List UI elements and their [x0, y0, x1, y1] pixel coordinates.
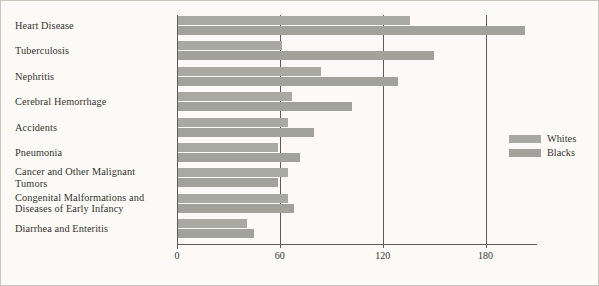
- tick-mark-120: [383, 244, 384, 248]
- legend-item-whites: Whites: [509, 133, 595, 144]
- bar-blacks-5: [178, 153, 300, 162]
- bar-whites-3: [178, 92, 292, 101]
- category-label-4: Accidents: [15, 122, 177, 134]
- bar-whites-4: [178, 118, 288, 127]
- bar-whites-8: [178, 219, 247, 228]
- chart-legend: WhitesBlacks: [509, 133, 595, 161]
- bar-blacks-3: [178, 102, 352, 111]
- bar-whites-5: [178, 143, 278, 152]
- tick-label-180: 180: [478, 250, 493, 261]
- bar-blacks-1: [178, 51, 434, 60]
- legend-label-whites: Whites: [547, 133, 576, 144]
- tick-label-120: 120: [375, 250, 390, 261]
- legend-swatch-blacks: [509, 149, 541, 157]
- category-label-1: Tuberculosis: [15, 45, 177, 57]
- bar-blacks-8: [178, 229, 254, 238]
- bar-blacks-0: [178, 26, 525, 35]
- legend-label-blacks: Blacks: [547, 147, 575, 158]
- category-label-7: Congenital Malformations and Diseases of…: [15, 192, 177, 215]
- bar-whites-7: [178, 194, 288, 203]
- category-label-8: Diarrhea and Enteritis: [15, 223, 177, 235]
- category-label-6: Cancer and Other Malignant Tumors: [15, 166, 177, 189]
- chart-figure: Heart DiseaseTuberculosisNephritisCerebr…: [0, 0, 599, 286]
- category-label-5: Pneumonia: [15, 147, 177, 159]
- bar-whites-2: [178, 67, 321, 76]
- category-label-column: Heart DiseaseTuberculosisNephritisCerebr…: [1, 1, 177, 286]
- gridline-180: [486, 15, 487, 244]
- bar-whites-0: [178, 16, 410, 25]
- tick-mark-0: [177, 244, 178, 248]
- category-label-3: Cerebral Hemorrhage: [15, 96, 177, 108]
- tick-label-0: 0: [175, 250, 180, 261]
- legend-swatch-whites: [509, 135, 541, 143]
- tick-label-60: 60: [275, 250, 285, 261]
- bar-blacks-7: [178, 204, 294, 213]
- bar-blacks-4: [178, 128, 314, 137]
- bar-blacks-2: [178, 77, 398, 86]
- legend-item-blacks: Blacks: [509, 147, 595, 158]
- bar-blacks-6: [178, 178, 278, 187]
- plot-area: [177, 15, 537, 244]
- x-axis: 060120180: [177, 244, 547, 274]
- bar-whites-1: [178, 41, 282, 50]
- category-label-0: Heart Disease: [15, 20, 177, 32]
- bar-whites-6: [178, 168, 288, 177]
- gridline-120: [383, 15, 384, 244]
- tick-mark-180: [486, 244, 487, 248]
- x-axis-rule: [177, 244, 537, 245]
- tick-mark-60: [280, 244, 281, 248]
- category-label-2: Nephritis: [15, 71, 177, 83]
